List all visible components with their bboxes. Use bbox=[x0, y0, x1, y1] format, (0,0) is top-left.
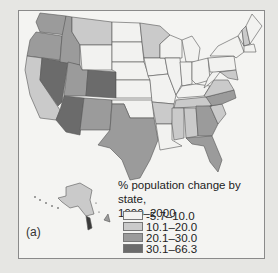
legend-title-line1: % population change by state, bbox=[118, 178, 268, 206]
legend-item-3: 20.1–30.0 bbox=[123, 232, 197, 243]
legend-item-2: 10.1–20.0 bbox=[123, 221, 197, 232]
legend-item-1: -5.7–10.0 bbox=[123, 210, 195, 221]
state-WY bbox=[80, 45, 112, 70]
state-AL bbox=[184, 108, 198, 138]
state-ND bbox=[112, 22, 142, 42]
state-MS bbox=[172, 108, 184, 140]
state-SD bbox=[112, 42, 144, 62]
state-MD bbox=[220, 70, 238, 80]
state-AK bbox=[58, 183, 94, 216]
state-FL bbox=[186, 136, 222, 172]
state-CO bbox=[86, 70, 116, 98]
state-PA bbox=[208, 56, 236, 72]
state-NY bbox=[210, 36, 244, 58]
alaska-panhandle bbox=[86, 216, 92, 230]
state-IN bbox=[180, 62, 192, 86]
state-NE bbox=[112, 62, 150, 80]
state-MI bbox=[182, 36, 200, 62]
state-WA bbox=[36, 13, 66, 35]
state-AR bbox=[152, 102, 174, 124]
legend-label-4: 30.1–66.3 bbox=[146, 243, 197, 255]
legend-swatch-3 bbox=[123, 233, 143, 242]
legend-item-4: 30.1–66.3 bbox=[123, 243, 197, 254]
legend-swatch-2 bbox=[123, 222, 143, 231]
state-OR bbox=[27, 32, 62, 60]
state-NM bbox=[80, 98, 112, 130]
legend-swatch-1 bbox=[123, 211, 143, 220]
state-KS bbox=[116, 80, 152, 98]
state-HI bbox=[104, 214, 110, 222]
panel-label: (a) bbox=[26, 225, 41, 239]
state-MT bbox=[72, 17, 112, 45]
legend-swatch-4 bbox=[123, 244, 143, 253]
state-IA bbox=[144, 58, 168, 76]
